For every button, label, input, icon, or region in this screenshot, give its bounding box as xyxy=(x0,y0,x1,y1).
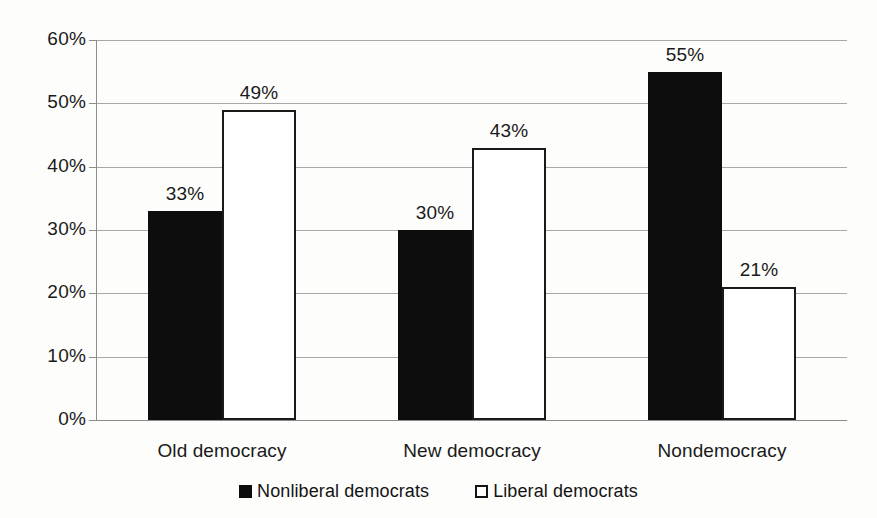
gridline xyxy=(97,103,847,104)
bar-value-label: 43% xyxy=(472,120,546,142)
legend-item: Nonliberal democrats xyxy=(239,481,429,502)
y-axis-tick xyxy=(89,103,96,104)
legend-swatch-outline-icon xyxy=(475,485,488,498)
category-label: Old democracy xyxy=(97,440,347,462)
bar-value-label: 49% xyxy=(222,82,296,104)
y-axis-tick-label: 50% xyxy=(16,91,86,113)
gridline xyxy=(97,420,847,421)
bar-nonliberal-1 xyxy=(398,230,472,420)
category-label: Nondemocracy xyxy=(597,440,847,462)
bar-liberal-0 xyxy=(222,110,296,420)
y-axis-tick xyxy=(89,40,96,41)
bar-liberal-1 xyxy=(472,148,546,420)
bar-value-label: 30% xyxy=(398,202,472,224)
y-axis-tick xyxy=(89,293,96,294)
chart-legend: Nonliberal democratsLiberal democrats xyxy=(0,481,877,502)
legend-item: Liberal democrats xyxy=(475,481,638,502)
category-label: New democracy xyxy=(347,440,597,462)
legend-swatch-filled-icon xyxy=(239,485,252,498)
bar-value-label: 33% xyxy=(148,183,222,205)
y-axis-tick-label: 40% xyxy=(16,155,86,177)
y-axis-tick xyxy=(89,230,96,231)
y-axis-tick-label: 60% xyxy=(16,28,86,50)
y-axis-tick xyxy=(89,357,96,358)
bar-value-label: 21% xyxy=(722,259,796,281)
y-axis-tick-label: 0% xyxy=(16,408,86,430)
bar-nonliberal-0 xyxy=(148,211,222,420)
bar-nonliberal-2 xyxy=(648,72,722,420)
bar-chart: 0%10%20%30%40%50%60% 33%49%30%43%55%21% … xyxy=(0,0,877,518)
y-axis-tick-label: 30% xyxy=(16,218,86,240)
gridline xyxy=(97,40,847,41)
y-axis-labels: 0%10%20%30%40%50%60% xyxy=(8,0,86,518)
y-axis-tick-label: 10% xyxy=(16,345,86,367)
y-axis-tick-label: 20% xyxy=(16,281,86,303)
y-axis-tick xyxy=(89,420,96,421)
legend-label: Liberal democrats xyxy=(493,481,638,502)
y-axis-tick xyxy=(89,167,96,168)
bar-liberal-2 xyxy=(722,287,796,420)
bar-value-label: 55% xyxy=(648,44,722,66)
legend-label: Nonliberal democrats xyxy=(257,481,429,502)
